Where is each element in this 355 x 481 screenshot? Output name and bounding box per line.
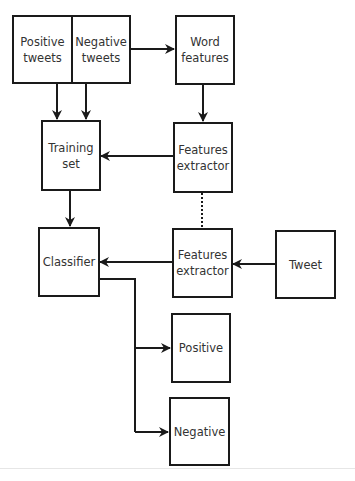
node-label: Word features bbox=[181, 34, 229, 66]
node-positive: Positive bbox=[171, 313, 231, 383]
node-positive-tweets: Positive tweets bbox=[12, 15, 73, 84]
node-negative-tweets: Negative tweets bbox=[71, 15, 131, 84]
flowchart-canvas: Positive tweets Negative tweets Word fea… bbox=[0, 0, 355, 481]
node-label: Training set bbox=[48, 140, 93, 172]
node-features-extractor-top: Features extractor bbox=[173, 122, 233, 193]
node-label: Features extractor bbox=[177, 142, 230, 174]
node-label: Features extractor bbox=[176, 247, 229, 279]
node-classifier: Classifier bbox=[38, 227, 100, 297]
page-edge-divider bbox=[0, 468, 355, 469]
node-tweet: Tweet bbox=[275, 230, 336, 299]
node-label: Tweet bbox=[289, 257, 322, 273]
node-label: Positive tweets bbox=[20, 34, 64, 66]
node-label: Positive bbox=[179, 340, 223, 356]
edge-classifier-branch bbox=[99, 279, 135, 432]
node-label: Classifier bbox=[43, 254, 96, 270]
node-training-set: Training set bbox=[41, 120, 101, 191]
node-word-features: Word features bbox=[175, 15, 235, 85]
node-label: Negative bbox=[174, 424, 226, 440]
node-negative: Negative bbox=[169, 397, 230, 466]
node-features-extractor-bottom: Features extractor bbox=[172, 228, 233, 298]
node-label: Negative tweets bbox=[75, 34, 127, 66]
